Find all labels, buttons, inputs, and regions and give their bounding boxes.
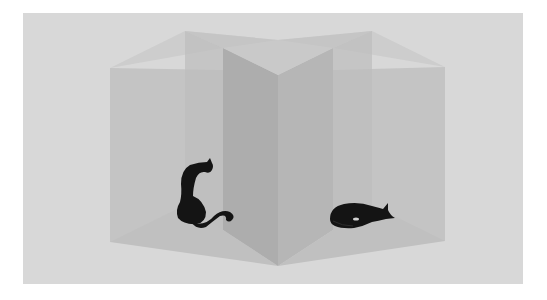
illusion-scene xyxy=(0,0,547,300)
right-back-wall xyxy=(333,31,372,230)
sleeping-cat-paw-gap xyxy=(353,217,359,220)
center-panel-left xyxy=(223,48,278,266)
center-panel-right xyxy=(278,48,333,266)
